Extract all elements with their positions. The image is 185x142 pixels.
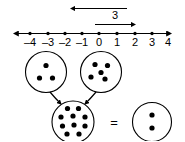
dot	[37, 75, 42, 80]
dot-group-right	[81, 52, 122, 93]
number-line-tick	[80, 32, 83, 35]
number-line-tick	[46, 32, 49, 35]
dot	[98, 70, 103, 75]
tick-label-neg2: –2	[59, 36, 71, 48]
dot	[88, 74, 93, 79]
dot	[71, 122, 76, 127]
tick-label-0: 0	[96, 36, 102, 48]
dot	[105, 63, 110, 68]
dot	[43, 63, 48, 68]
arrow-left-to-total	[50, 92, 61, 104]
dot	[82, 123, 87, 128]
number-line: –4 –3 –2 –1 0 1 2 3 4	[14, 32, 171, 48]
dot	[58, 114, 63, 119]
tick-label-3: 3	[149, 36, 155, 48]
number-line-tick	[97, 32, 100, 35]
number-line-tick	[28, 32, 31, 35]
dot-group-result-outline	[133, 103, 172, 142]
dot-group-total-outline	[52, 101, 94, 141]
dot-group-result	[133, 103, 172, 142]
tick-label-neg4: –4	[24, 36, 36, 48]
tick-label-neg3: –3	[42, 36, 54, 48]
number-line-tick	[63, 32, 66, 35]
dot	[82, 114, 87, 119]
dot-group-total	[52, 101, 94, 141]
dot	[64, 131, 69, 136]
tick-label-1: 1	[114, 36, 120, 48]
tick-label-4: 4	[165, 36, 171, 48]
figure-canvas: 3 –4 –3 –2 –1 0 1 2 3 4	[0, 0, 185, 141]
dot	[65, 106, 70, 111]
dot	[76, 106, 81, 111]
dot	[102, 76, 107, 81]
equals-sign: =	[110, 115, 118, 130]
tick-label-2: 2	[132, 36, 138, 48]
tick-label-neg1: –1	[76, 36, 88, 48]
number-line-tick	[150, 32, 153, 35]
dot	[149, 125, 154, 130]
dot-group-left	[26, 52, 67, 93]
lower-jump-label: 3	[112, 9, 118, 21]
arrow-right-to-total	[85, 92, 96, 104]
dot	[50, 75, 55, 80]
number-line-tick	[166, 32, 169, 35]
dot	[92, 62, 97, 67]
number-line-tick	[115, 32, 118, 35]
number-line-tick	[133, 32, 136, 35]
lower-jump-arrow: 3	[95, 9, 135, 25]
dot-group-left-outline	[26, 52, 67, 93]
dot	[60, 123, 65, 128]
dot	[149, 112, 154, 117]
dot	[70, 113, 75, 118]
math-figure: 3 –4 –3 –2 –1 0 1 2 3 4	[0, 0, 185, 141]
dot	[76, 131, 81, 136]
